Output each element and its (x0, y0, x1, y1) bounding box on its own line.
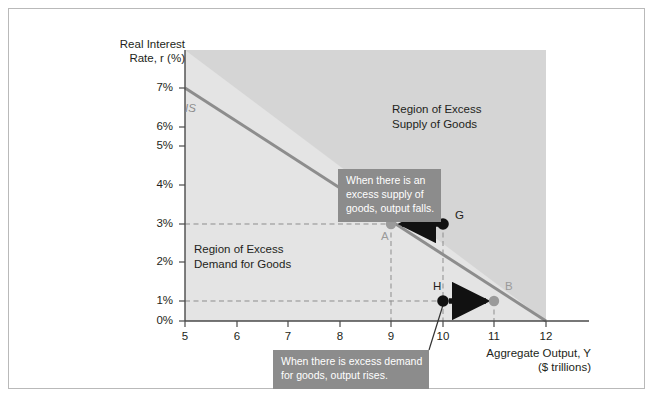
y-tick-label-5: 5% (139, 139, 173, 151)
x-tick-label-7: 7 (276, 330, 300, 342)
y-tick-label-7: 7% (139, 81, 173, 93)
x-tick-label-10: 10 (431, 330, 455, 342)
x-tick-label-12: 12 (534, 330, 558, 342)
y-tick-label-3: 3% (139, 217, 173, 229)
x-tick-label-11: 11 (482, 330, 506, 342)
x-tick-label-8: 8 (328, 330, 352, 342)
x-axis-title-line1: Aggregate Output, Y (486, 347, 591, 359)
figure-frame: Real InterestRate, r (%) Aggregate Outpu… (8, 8, 645, 389)
callout-excess-demand: When there is excess demand for goods, o… (273, 350, 429, 389)
point-label-g: G (455, 209, 464, 221)
y-tick-label-1: 1% (139, 294, 173, 306)
region-label-excess-demand: Region of Excess Demand for Goods (194, 242, 291, 272)
x-axis-title-line2: ($ trillions) (538, 361, 591, 373)
y-tick-label-6: 6% (139, 120, 173, 132)
y-tick-marks (179, 88, 185, 321)
point-b-dot (489, 296, 499, 306)
point-label-a: A (381, 230, 389, 242)
point-h-dot (437, 295, 449, 307)
y-tick-label-0: 0% (139, 314, 173, 326)
point-label-b: B (505, 280, 513, 292)
y-axis-title: Real InterestRate, r (%) (93, 37, 185, 65)
x-tick-label-6: 6 (225, 330, 249, 342)
point-label-h: H (433, 280, 441, 292)
callout-excess-supply: When there is an excess supply of goods,… (338, 169, 441, 222)
is-curve-label: IS (185, 102, 196, 114)
region-label-excess-supply: Region of Excess Supply of Goods (392, 102, 482, 132)
x-tick-label-9: 9 (379, 330, 403, 342)
y-axis-title-line1: Real Interest (120, 38, 185, 50)
x-tick-marks (185, 321, 546, 327)
x-axis-title: Aggregate Output, Y($ trillions) (441, 346, 591, 374)
x-tick-label-5: 5 (173, 330, 197, 342)
y-tick-label-2: 2% (139, 255, 173, 267)
y-tick-label-4: 4% (139, 178, 173, 190)
y-axis-title-line2: Rate, r (%) (129, 52, 185, 64)
